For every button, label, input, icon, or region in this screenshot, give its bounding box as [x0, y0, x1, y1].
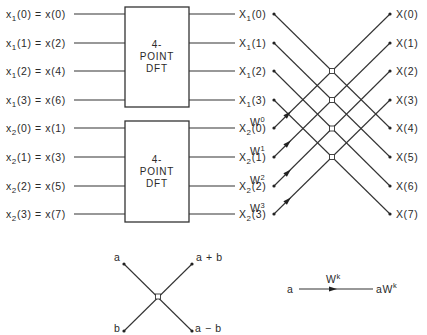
- dft-block-1-line3: DFT: [146, 63, 168, 74]
- legend-mult-gain: Wk: [326, 272, 341, 285]
- input-lines: x1(0) = x(0)x1(1) = x(2)x1(2) = x(4)x1(3…: [6, 8, 125, 223]
- input-label: x1(0) = x(0): [6, 8, 66, 23]
- output-label: X(4): [396, 122, 418, 134]
- output-dot: [388, 69, 391, 72]
- dft-block-1: 4- POINT DFT: [125, 7, 189, 107]
- node-dot: [272, 126, 275, 129]
- output-labels: X(0)X(1)X(2)X(3)X(4)X(5)X(6)X(7): [396, 8, 418, 220]
- intermediate-label: X1(1): [239, 37, 266, 52]
- output-label: X(6): [396, 180, 418, 192]
- input-label: x2(0) = x(1): [6, 122, 66, 137]
- node-dot: [272, 155, 275, 158]
- dft-block-2-line2: POINT: [140, 166, 175, 177]
- output-label: X(0): [396, 8, 418, 20]
- dft-block-2-line3: DFT: [146, 178, 168, 189]
- dft-block-1-line1: 4-: [152, 39, 163, 50]
- dft-block-2: 4- POINT DFT: [125, 121, 189, 222]
- node-dot: [272, 12, 275, 15]
- legend-label-a-plus-b: a + b: [196, 251, 223, 263]
- legend-dot-a-plus-b: [190, 262, 193, 265]
- dft-block-2-line1: 4-: [152, 154, 163, 165]
- butterfly-node: [330, 98, 335, 103]
- node-dot: [272, 212, 275, 215]
- legend-dot-b: [122, 329, 125, 332]
- butterfly-node: [330, 155, 335, 160]
- output-dot: [388, 126, 391, 129]
- input-label: x1(2) = x(4): [6, 65, 66, 80]
- node-dot: [272, 41, 275, 44]
- node-dot: [272, 69, 275, 72]
- output-label: X(5): [396, 151, 418, 163]
- output-dot: [388, 212, 391, 215]
- legend-mult-output-label: aWk: [376, 281, 397, 295]
- output-dot: [388, 155, 391, 158]
- legend-label-a: a: [114, 251, 120, 263]
- output-label: X(1): [396, 37, 418, 49]
- input-label: x2(1) = x(3): [6, 151, 66, 166]
- node-dot: [272, 184, 275, 187]
- butterfly-node: [330, 69, 335, 74]
- legend-mult-arrow-icon: [329, 287, 337, 292]
- butterfly-node: [330, 126, 335, 131]
- output-label: X(3): [396, 94, 418, 106]
- legend-dot-a-minus-b: [190, 329, 193, 332]
- input-label: x2(3) = x(7): [6, 208, 66, 223]
- legend-multiplier: a Wk aWk: [287, 272, 397, 295]
- legend-label-b: b: [114, 322, 120, 334]
- output-dot: [388, 41, 391, 44]
- input-label: x2(2) = x(5): [6, 180, 66, 195]
- output-dot: [388, 184, 391, 187]
- legend-mult-input-label: a: [287, 283, 293, 295]
- node-dot: [272, 98, 275, 101]
- output-label: X(7): [396, 208, 418, 220]
- fft-flow-graph: 4- POINT DFT 4- POINT DFT x1(0) = x(0)x1…: [0, 0, 427, 335]
- input-label: x1(1) = x(2): [6, 37, 66, 52]
- intermediate-label: X1(3): [239, 94, 266, 109]
- legend-butterfly-node: [156, 294, 161, 299]
- legend-label-a-minus-b: a − b: [195, 322, 222, 334]
- intermediate-label: X1(0): [239, 8, 266, 23]
- output-dot: [388, 98, 391, 101]
- intermediate-label: X1(2): [239, 65, 266, 80]
- legend-dot-a: [122, 262, 125, 265]
- input-label: x1(3) = x(6): [6, 94, 66, 109]
- output-label: X(2): [396, 65, 418, 77]
- output-dot: [388, 12, 391, 15]
- legend-butterfly: a a + b b a − b: [114, 251, 223, 334]
- butterfly-stage: W0W1W2W3: [250, 12, 392, 215]
- dft-block-1-line2: POINT: [140, 51, 175, 62]
